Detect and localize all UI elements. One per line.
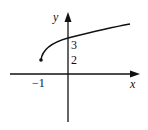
function-graph: y x 3 2 −1	[0, 0, 148, 130]
start-point-dot	[39, 58, 43, 62]
x-axis-label: x	[129, 77, 136, 91]
tick-label-y-2: 2	[71, 53, 77, 67]
function-curve	[41, 24, 130, 60]
tick-label-y-3: 3	[71, 38, 77, 52]
y-axis-label: y	[52, 10, 59, 24]
tick-label-x-neg1: −1	[32, 76, 45, 90]
y-axis-arrow-icon	[65, 12, 72, 22]
